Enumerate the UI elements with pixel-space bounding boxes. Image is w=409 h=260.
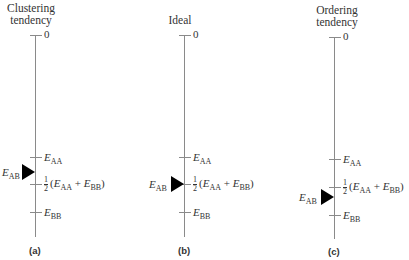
label-e-aa: EAA: [193, 151, 211, 168]
panel-caption: (a): [29, 245, 41, 256]
title-line-1: Ordering: [312, 4, 362, 16]
e-ab-arrow-icon: [321, 189, 334, 205]
tick-zero: [329, 37, 341, 38]
panel-caption: (c): [328, 246, 340, 257]
label-e-aa: EAA: [343, 153, 361, 170]
panel-clustering: Clustering tendency 0 EAA 12(EAA + EBB) …: [0, 0, 140, 260]
label-zero: 0: [44, 28, 50, 40]
label-midpoint: 12(EAA + EBB): [44, 176, 105, 194]
tick-e-aa: [179, 157, 191, 158]
energy-axis: [35, 35, 36, 237]
tick-midpoint: [30, 184, 42, 185]
label-e-aa: EAA: [44, 151, 62, 168]
tick-e-bb: [30, 212, 42, 213]
tick-e-aa: [329, 159, 341, 160]
e-ab-arrow-icon: [22, 164, 35, 180]
label-e-ab: EAB: [149, 178, 167, 195]
tick-zero: [179, 35, 191, 36]
panel-ideal: Ideal 0 EAA 12(EAA + EBB) EBB EAB (b): [140, 0, 275, 260]
panel-title: Ordering tendency: [312, 4, 362, 28]
panel-title: Ideal: [160, 14, 200, 26]
tick-e-bb: [329, 215, 341, 216]
energy-axis: [334, 37, 335, 239]
energy-axis: [184, 35, 185, 237]
title-line-1: Ideal: [160, 14, 200, 26]
label-e-ab: EAB: [2, 166, 20, 183]
e-ab-arrow-icon: [171, 176, 184, 192]
label-e-bb: EBB: [44, 206, 61, 223]
panel-ordering: Ordering tendency 0 EAA 12(EAA + EBB) EB…: [275, 0, 409, 260]
fraction-half: 12: [343, 179, 347, 196]
label-zero: 0: [343, 30, 349, 42]
tick-e-aa: [30, 157, 42, 158]
label-e-bb: EBB: [193, 206, 210, 223]
label-midpoint: 12(EAA + EBB): [193, 176, 254, 194]
fraction-half: 12: [193, 176, 197, 193]
fraction-half: 12: [44, 176, 48, 193]
label-e-bb: EBB: [343, 209, 360, 226]
tick-zero: [30, 35, 42, 36]
label-zero: 0: [193, 28, 199, 40]
title-line-2: tendency: [312, 16, 362, 28]
label-e-ab: EAB: [299, 191, 317, 208]
panel-caption: (b): [178, 245, 190, 256]
title-line-1: Clustering: [6, 2, 56, 14]
panel-title: Clustering tendency: [6, 2, 56, 26]
tick-e-bb: [179, 212, 191, 213]
tick-midpoint: [329, 187, 341, 188]
label-midpoint: 12(EAA + EBB): [343, 179, 404, 197]
title-line-2: tendency: [6, 14, 56, 26]
